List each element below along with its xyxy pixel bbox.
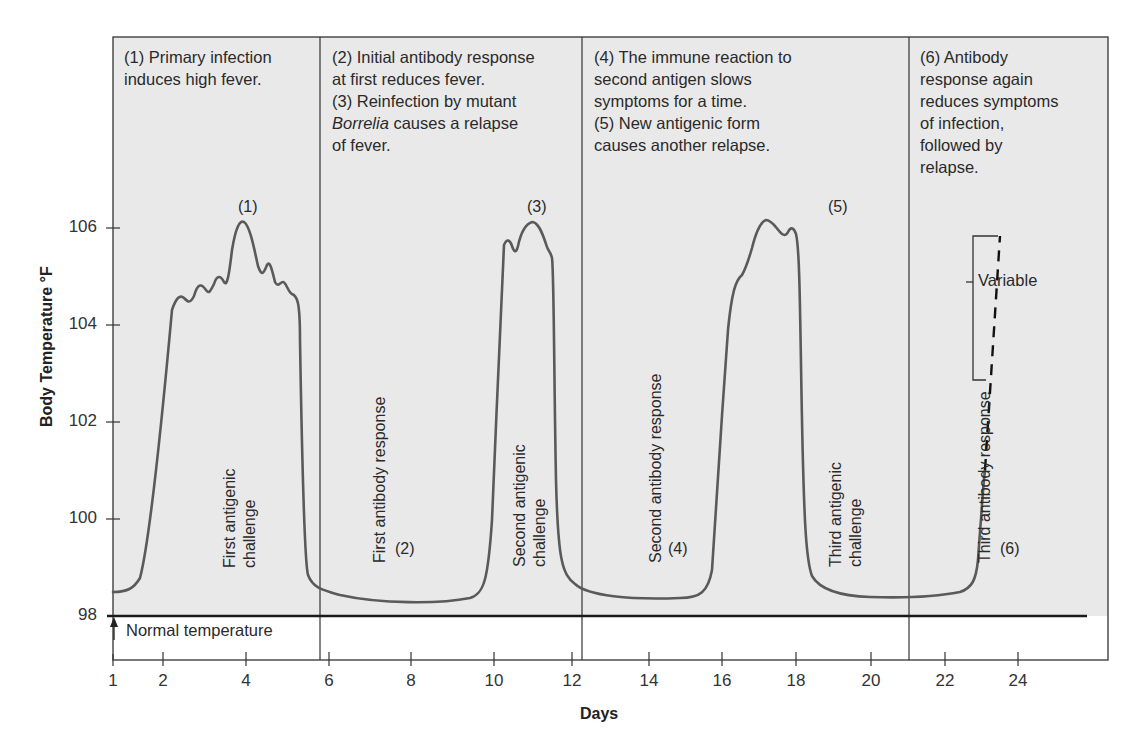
x-tick-2: 2 — [148, 671, 178, 691]
variable-label: Variable — [978, 271, 1037, 290]
panel-2-caption: (2) Initial antibody response at first r… — [332, 46, 535, 156]
label-line: challenge — [240, 468, 260, 568]
x-tick-14: 14 — [634, 671, 664, 691]
x-tick-20: 20 — [856, 671, 886, 691]
caption-line: second antigen slows — [594, 68, 792, 90]
caption-line: (4) The immune reaction to — [594, 46, 792, 68]
label-first-antibody-response: First antibody response — [370, 397, 390, 563]
caption-line: (6) Antibody — [920, 46, 1058, 68]
caption-line: (5) New antigenic form — [594, 112, 792, 134]
caption-line: (3) Reinfection by mutant — [332, 90, 535, 112]
normal-temperature-label: Normal temperature — [126, 621, 273, 640]
x-tick-6: 6 — [314, 671, 344, 691]
x-tick-22: 22 — [930, 671, 960, 691]
label-line: Second antibody response — [646, 374, 666, 563]
x-axis-title: Days — [580, 705, 618, 723]
label-second-antibody-response: Second antibody response — [646, 374, 666, 563]
label-first-antigenic-challenge: First antigenic challenge — [220, 468, 260, 568]
italic-organism-name: Borrelia — [332, 114, 389, 132]
x-tick-12: 12 — [557, 671, 587, 691]
marker-2: (2) — [395, 540, 415, 558]
label-line: First antigenic — [220, 468, 240, 568]
arrow-up-icon — [110, 617, 118, 640]
caption-fragment: causes a relapse — [389, 114, 518, 132]
x-tick-1: 1 — [98, 671, 128, 691]
panel-1-caption: (1) Primary infection induces high fever… — [124, 46, 272, 90]
caption-line: of fever. — [332, 134, 535, 156]
caption-line: (1) Primary infection — [124, 46, 272, 68]
caption-line: followed by — [920, 134, 1058, 156]
caption-line: symptoms for a time. — [594, 90, 792, 112]
caption-line: (2) Initial antibody response — [332, 46, 535, 68]
label-line: challenge — [530, 444, 550, 567]
marker-5: (5) — [828, 198, 848, 216]
label-line: Third antigenic — [826, 462, 846, 567]
x-tick-4: 4 — [231, 671, 261, 691]
y-axis-title: Body Temperature °F — [38, 266, 56, 427]
label-line: challenge — [846, 462, 866, 567]
panel-3-caption: (4) The immune reaction to second antige… — [594, 46, 792, 156]
y-tick-102: 102 — [57, 411, 97, 431]
label-line: First antibody response — [370, 397, 390, 563]
x-tick-18: 18 — [781, 671, 811, 691]
caption-line: Borrelia causes a relapse — [332, 112, 535, 134]
marker-3: (3) — [527, 198, 547, 216]
marker-4: (4) — [668, 540, 688, 558]
x-tick-24: 24 — [1003, 671, 1033, 691]
x-tick-8: 8 — [396, 671, 426, 691]
x-axis-ticks — [113, 652, 1018, 666]
label-second-antigenic-challenge: Second antigenic challenge — [510, 444, 550, 567]
marker-6: (6) — [1000, 540, 1020, 558]
y-tick-104: 104 — [57, 314, 97, 334]
label-third-antigenic-challenge: Third antigenic challenge — [826, 462, 866, 567]
y-tick-100: 100 — [57, 508, 97, 528]
x-tick-10: 10 — [479, 671, 509, 691]
marker-1: (1) — [238, 198, 258, 216]
y-tick-106: 106 — [57, 217, 97, 237]
label-line: Third antibody response — [975, 391, 995, 563]
caption-line: causes another relapse. — [594, 134, 792, 156]
x-tick-16: 16 — [707, 671, 737, 691]
label-line: Second antigenic — [510, 444, 530, 567]
panel-4-caption: (6) Antibody response again reduces symp… — [920, 46, 1058, 178]
caption-line: response again — [920, 68, 1058, 90]
label-third-antibody-response: Third antibody response — [975, 391, 995, 563]
caption-line: relapse. — [920, 156, 1058, 178]
caption-line: induces high fever. — [124, 68, 272, 90]
caption-line: reduces symptoms — [920, 90, 1058, 112]
y-tick-98: 98 — [57, 605, 97, 625]
caption-line: at first reduces fever. — [332, 68, 535, 90]
caption-line: of infection, — [920, 112, 1058, 134]
